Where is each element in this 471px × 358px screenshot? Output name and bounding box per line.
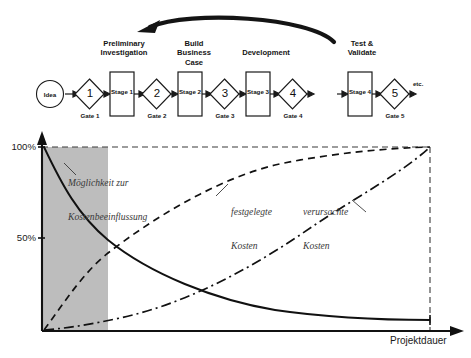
verursachte-kosten-line1: verursachte (303, 206, 348, 217)
gate-number-4: 4 (277, 87, 309, 99)
y-axis-arrowhead (37, 131, 47, 145)
festgelegte-kosten-line2: Kosten (231, 240, 272, 251)
gate-caption-2: Gate 2 (136, 112, 178, 119)
festgelegte-kosten-annotation: festgelegte Kosten (231, 183, 272, 274)
gate-caption-3: Gate 3 (204, 112, 246, 119)
idea-label: Idea (32, 91, 68, 98)
x-axis-label: Projektdauer (390, 335, 447, 346)
gate-caption-1: Gate 1 (69, 112, 111, 119)
gate-number-3: 3 (209, 87, 241, 99)
phase-header-3: Development (218, 48, 314, 57)
y-tick-label-100: 100% (0, 141, 36, 152)
shaded-region-annotation-line2: Kostenbeeinflussung (68, 211, 147, 222)
x-axis-arrowhead (450, 326, 464, 336)
gate-number-1: 1 (74, 87, 106, 99)
stage-label-1: Stage 1 (100, 88, 144, 95)
figure-root: PreliminaryInvestigation BuildBusinessCa… (0, 0, 471, 358)
shaded-region-annotation: Möglichkeit zur Kostenbeeinflussung (68, 154, 147, 245)
stage-label-3: Stage 3 (236, 88, 280, 95)
stage-label-4: Stage 4 (338, 88, 382, 95)
leader-verursachte (352, 200, 366, 212)
y-tick-label-50: 50% (0, 232, 36, 243)
verursachte-kosten-annotation: verursachte Kosten (303, 183, 348, 274)
gate-number-2: 2 (141, 87, 173, 99)
festgelegte-kosten-line1: festgelegte (231, 206, 272, 217)
shaded-region-annotation-line1: Möglichkeit zur (68, 177, 147, 188)
stage-label-2: Stage 2 (168, 88, 212, 95)
phase-header-4: Test &Validate (318, 39, 406, 58)
gate-caption-4: Gate 4 (272, 112, 314, 119)
process-end-label: etc. (413, 81, 423, 87)
gate-caption-5: Gate 5 (374, 112, 416, 119)
verursachte-kosten-line2: Kosten (303, 240, 348, 251)
gate-number-5: 5 (379, 87, 411, 99)
